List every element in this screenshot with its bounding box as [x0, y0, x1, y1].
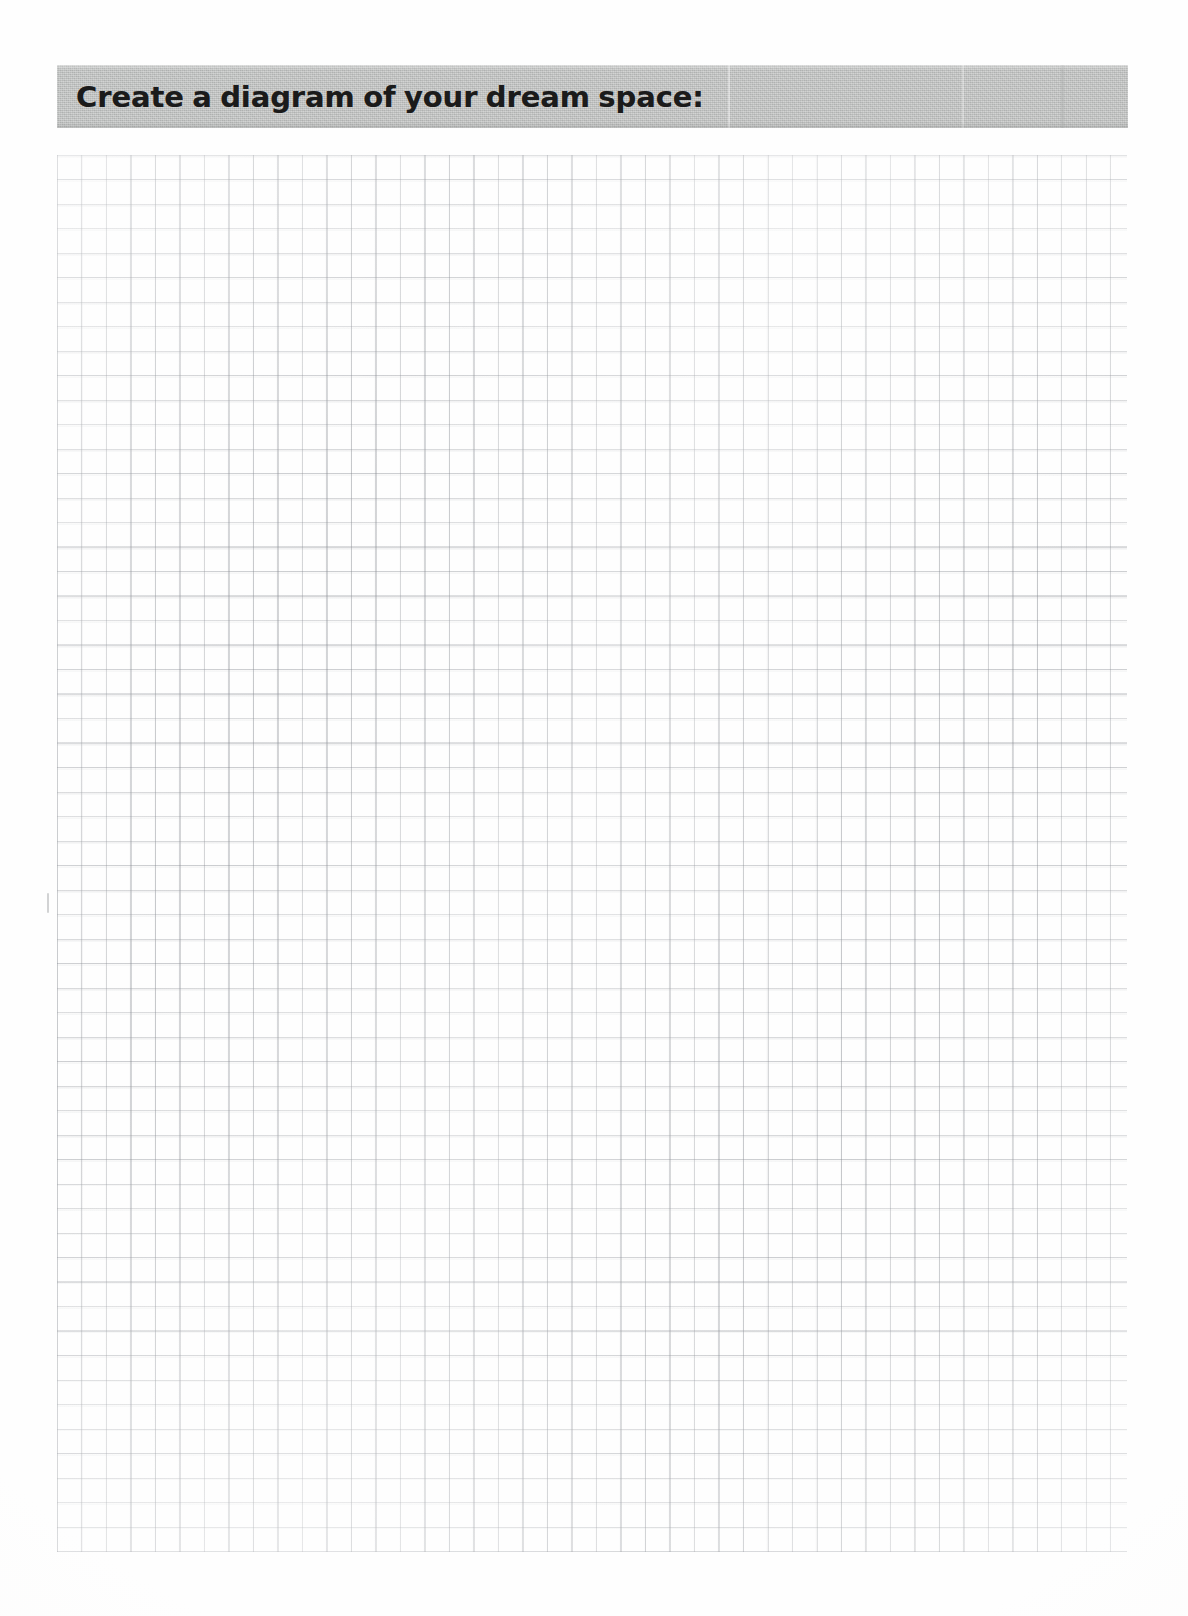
scan-artifact-tick-mark — [47, 893, 49, 913]
grid-major-ruling — [57, 155, 1127, 1552]
graph-paper-response-area[interactable] — [57, 155, 1127, 1552]
page-title: Create a diagram of your dream space: — [76, 80, 704, 114]
prompt-banner: Create a diagram of your dream space: — [57, 65, 1128, 128]
worksheet-page: Create a diagram of your dream space: — [0, 0, 1188, 1616]
